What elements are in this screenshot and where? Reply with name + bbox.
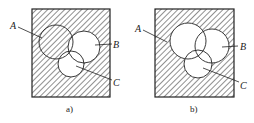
label-c: C: [113, 77, 120, 88]
label-b: B: [240, 41, 246, 52]
caption-b: b): [190, 104, 198, 114]
universe-hatch: [155, 9, 234, 97]
label-a: A: [134, 23, 142, 34]
label-a: A: [9, 20, 17, 31]
panel-b: A B C b): [134, 9, 247, 114]
label-c: C: [240, 80, 247, 91]
venn-figure: A B C a) A B C b): [0, 0, 254, 123]
label-b: B: [113, 39, 119, 50]
caption-a: a): [66, 104, 73, 114]
panel-a: A B C a): [9, 9, 120, 114]
